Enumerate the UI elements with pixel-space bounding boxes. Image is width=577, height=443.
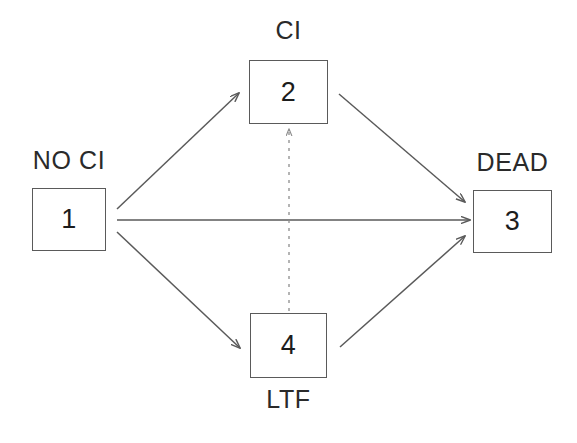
transition-4-to-3 xyxy=(340,236,465,347)
state-transition-diagram: NO CI 1 CI 2 DEAD 3 4 LTF xyxy=(0,0,577,443)
state-label-ltf: LTF xyxy=(250,385,327,414)
state-label-dead: DEAD xyxy=(455,148,570,177)
state-box-3[interactable]: 3 xyxy=(473,190,552,253)
state-label-ci: CI xyxy=(249,16,328,45)
state-box-2[interactable]: 2 xyxy=(249,60,328,124)
transition-2-to-3 xyxy=(339,94,465,202)
transition-1-to-2 xyxy=(117,93,239,209)
state-label-no-ci: NO CI xyxy=(32,146,106,175)
state-box-4[interactable]: 4 xyxy=(250,313,327,378)
transition-1-to-4 xyxy=(117,232,240,348)
state-box-1[interactable]: 1 xyxy=(32,188,106,251)
